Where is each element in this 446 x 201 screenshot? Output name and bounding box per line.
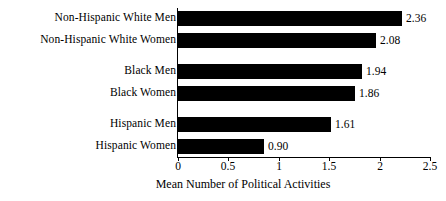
x-tick-label-1-5: 1.5 — [322, 160, 336, 172]
category-label-hispanic-men: Hispanic Men — [110, 117, 176, 129]
bar-value-hispanic-men: 1.61 — [335, 118, 355, 130]
category-label-non-hispanic-white-women: Non-Hispanic White Women — [40, 33, 176, 45]
category-label-black-women: Black Women — [110, 86, 176, 98]
x-axis-title: Mean Number of Political Activities — [0, 177, 446, 191]
bar-black-men — [178, 64, 362, 79]
x-tick-label-0-5: 0.5 — [221, 160, 235, 172]
bar-chart: Non-Hispanic White Men Non-Hispanic Whit… — [0, 0, 446, 201]
bar-hispanic-women — [178, 139, 264, 154]
x-tick-label-2-5: 2.5 — [423, 160, 437, 172]
bar-black-women — [178, 86, 355, 101]
bar-value-black-men: 1.94 — [366, 65, 386, 77]
x-axis-line — [177, 157, 431, 158]
bar-value-non-hispanic-white-men: 2.36 — [406, 12, 426, 24]
plot-area: 2.36 2.08 1.94 1.86 1.61 0.90 — [178, 8, 431, 158]
bar-non-hispanic-white-men — [178, 11, 402, 26]
category-label-hispanic-women: Hispanic Women — [96, 139, 176, 151]
x-tick-label-1: 1 — [276, 160, 282, 172]
bar-non-hispanic-white-women — [178, 33, 376, 48]
y-axis-line — [177, 8, 178, 158]
category-label-black-men: Black Men — [124, 64, 176, 76]
x-tick-label-0: 0 — [175, 160, 181, 172]
category-label-non-hispanic-white-men: Non-Hispanic White Men — [55, 11, 176, 23]
bar-value-hispanic-women: 0.90 — [268, 140, 288, 152]
bar-value-non-hispanic-white-women: 2.08 — [380, 34, 400, 46]
bar-hispanic-men — [178, 117, 331, 132]
bar-value-black-women: 1.86 — [359, 87, 379, 99]
x-tick-label-2: 2 — [377, 160, 383, 172]
